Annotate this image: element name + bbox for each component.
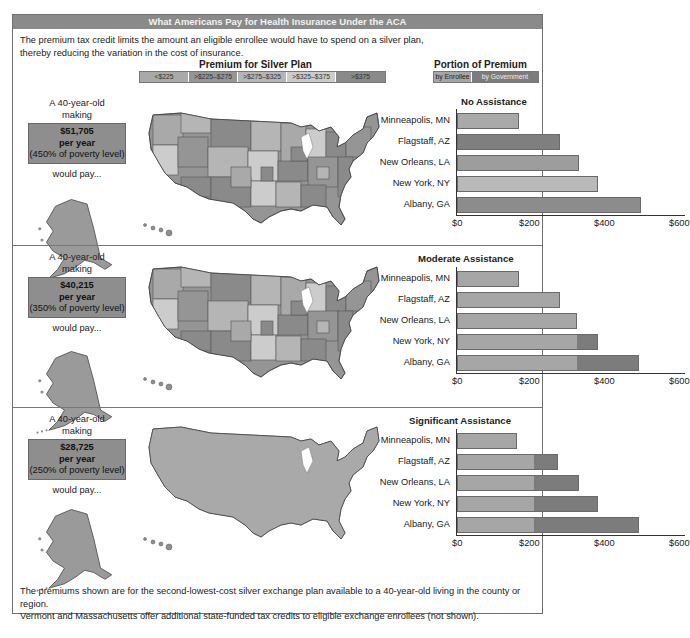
premium-bar [457,292,560,308]
person-line-1: A 40-year-old [13,413,141,425]
chart-title: Significant Assistance [409,415,511,426]
map-legend: <$225>$225–$275>$275–$325>$325–$375>$375 [139,71,386,83]
us-premium-map [141,421,385,555]
person-line-1: A 40-year-old [13,251,141,263]
enrollee-segment [458,335,577,349]
enrollee-segment [458,177,597,191]
income-amount: $51,705 [29,126,125,138]
premium-bar [457,313,577,329]
y-axis [456,109,457,215]
enrollee-segment [458,434,516,448]
income-amount: $40,215 [29,280,125,292]
x-tick-label: $600 [669,376,690,386]
city-label: New York, NY [393,336,450,346]
us-premium-map [141,261,385,395]
y-axis [456,267,457,373]
government-segment [534,518,638,532]
city-label: Flagstaff, AZ [398,294,450,304]
premium-bar [457,517,639,533]
assistance-section: A 40-year-old making $28,725 per year (2… [13,413,542,563]
income-box: $40,215 per year (350% of poverty level) [28,277,126,318]
x-tick-label: $600 [669,538,690,548]
map-legend-bin: <$225 [140,72,189,82]
section-divider [13,407,542,408]
infographic-title: What Americans Pay for Health Insurance … [13,15,542,29]
intro-text: The premium tax credit limits the amount… [20,34,500,59]
would-pay-text: would pay... [13,168,141,180]
intro-line-1: The premium tax credit limits the amount… [20,34,500,47]
would-pay-text: would pay... [13,484,141,496]
assistance-section: A 40-year-old making $40,215 per year (3… [13,251,542,401]
enrollee-segment [458,198,640,212]
section-divider [13,245,542,246]
x-axis [456,215,685,216]
enrollee-segment [458,314,576,328]
city-label: Albany, GA [404,357,450,367]
income-period: per year [29,138,125,150]
income-box: $28,725 per year (250% of poverty level) [28,439,126,480]
government-segment [534,497,597,511]
city-label: New York, NY [393,498,450,508]
enrollee-segment [458,114,518,128]
enrollee-segment [458,497,534,511]
city-label: Flagstaff, AZ [398,136,450,146]
would-pay-text: would pay... [13,322,141,334]
poverty-level: (450% of poverty level) [29,149,125,161]
x-tick-label: $200 [519,538,540,548]
enrollee-segment [458,293,559,307]
premium-bar [457,113,519,129]
premium-bar [457,134,560,150]
city-label: Minneapolis, MN [381,435,450,445]
city-label: New Orleans, LA [380,477,450,487]
us-premium-map [141,107,385,241]
premium-bar [457,334,598,350]
portion-legend: by Enrollee by Government [433,71,539,83]
city-label: New Orleans, LA [380,315,450,325]
premium-bar [457,271,519,287]
footnote-line-2: Vermont and Massachusetts offer addition… [20,610,540,623]
city-label: Albany, GA [404,199,450,209]
map-legend-bin: >$375 [336,72,385,82]
person-line-2: making [13,425,141,437]
footnote-line-1: The premiums shown are for the second-lo… [20,585,540,610]
intro-line-2: thereby reducing the variation in the co… [20,47,500,60]
x-tick-label: $0 [452,376,462,386]
map-legend-bin: >$275–$325 [238,72,287,82]
person-line-2: making [13,109,141,121]
premium-bar [457,454,558,470]
government-segment [534,455,557,469]
x-tick-label: $0 [452,218,462,228]
premium-bar [457,475,579,491]
income-period: per year [29,292,125,304]
government-segment [577,335,597,349]
city-label: Flagstaff, AZ [398,456,450,466]
footnote: The premiums shown are for the second-lo… [20,585,540,623]
chart-title: No Assistance [461,96,527,107]
city-label: New York, NY [393,178,450,188]
legend-enrollee: by Enrollee [434,72,472,82]
x-axis [456,535,685,536]
city-label: Minneapolis, MN [381,115,450,125]
enrollee-segment [458,156,578,170]
person-description: A 40-year-old making $28,725 per year (2… [13,413,141,496]
x-tick-label: $600 [669,218,690,228]
chart-title: Moderate Assistance [418,253,514,264]
x-tick-label: $200 [519,376,540,386]
infographic-frame: What Americans Pay for Health Insurance … [12,14,543,614]
premium-bar [457,176,598,192]
premium-bar [457,197,641,213]
map-legend-title: Premium for Silver Plan [199,59,312,70]
premium-bar [457,433,517,449]
poverty-level: (250% of poverty level) [29,465,125,477]
x-tick-label: $0 [452,538,462,548]
x-tick-label: $400 [594,218,615,228]
enrollee-segment [458,272,518,286]
x-tick-label: $200 [519,218,540,228]
person-line-2: making [13,263,141,275]
city-label: Minneapolis, MN [381,273,450,283]
city-label: Albany, GA [404,519,450,529]
x-axis [456,373,685,374]
income-amount: $28,725 [29,442,125,454]
legend-government: by Government [472,72,538,82]
person-description: A 40-year-old making $51,705 per year (4… [13,97,141,180]
